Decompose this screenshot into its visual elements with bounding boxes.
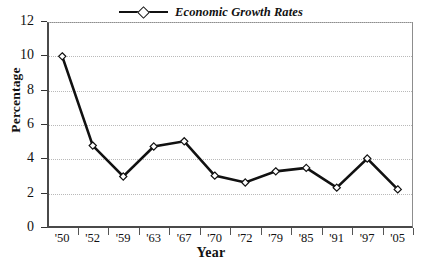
x-tick-label: '63: [137, 231, 171, 246]
x-tick-label: '70: [198, 231, 232, 246]
x-tick-mark: [413, 228, 414, 235]
y-tick-mark: [41, 90, 47, 91]
legend-label: Economic Growth Rates: [175, 5, 303, 20]
x-tick-label: '50: [45, 231, 79, 246]
legend-diamond-icon: [137, 6, 150, 19]
y-tick-mark: [41, 55, 47, 56]
x-tick-label: '52: [76, 231, 110, 246]
y-tick-label: 4: [8, 150, 34, 166]
y-tick-label: 12: [8, 13, 34, 29]
plot-area: [47, 22, 413, 228]
y-tick-label: 2: [8, 185, 34, 201]
x-tick-label: '59: [106, 231, 140, 246]
x-tick-label: '05: [381, 231, 415, 246]
x-tick-label: '85: [289, 231, 323, 246]
gridline: [49, 22, 412, 23]
gridline: [49, 91, 412, 92]
x-tick-label: '67: [167, 231, 201, 246]
y-tick-mark: [41, 21, 47, 22]
x-axis-title: Year: [0, 245, 422, 261]
x-tick-label: '97: [350, 231, 384, 246]
y-tick-mark: [41, 158, 47, 159]
y-tick-label: 6: [8, 116, 34, 132]
gridline: [49, 56, 412, 57]
y-tick-mark: [41, 227, 47, 228]
gridline: [49, 159, 412, 160]
y-tick-label: 0: [8, 219, 34, 235]
y-tick-mark: [41, 193, 47, 194]
x-tick-label: '91: [320, 231, 354, 246]
gridline: [49, 125, 412, 126]
y-tick-label: 10: [8, 47, 34, 63]
y-tick-mark: [41, 124, 47, 125]
x-tick-label: '79: [259, 231, 293, 246]
x-tick-label: '72: [228, 231, 262, 246]
chart-legend: Economic Growth Rates: [0, 2, 422, 22]
y-tick-label: 8: [8, 82, 34, 98]
legend-item-economic-growth-rates: Economic Growth Rates: [119, 5, 303, 20]
gridline: [49, 194, 412, 195]
chart-root: Economic Growth Rates Percentage 0246810…: [0, 0, 422, 265]
